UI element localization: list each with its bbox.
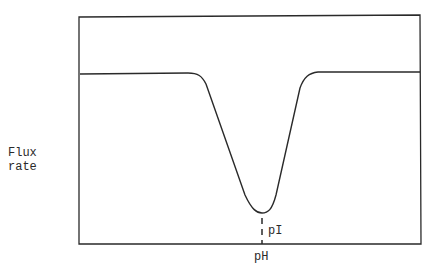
chart-canvas bbox=[0, 0, 433, 273]
y-axis-label-line2: rate bbox=[8, 160, 58, 174]
y-axis-label: Flux rate bbox=[8, 146, 58, 174]
flux-curve bbox=[80, 72, 420, 213]
y-axis-label-line1: Flux bbox=[8, 146, 58, 160]
x-axis-label: pH bbox=[254, 250, 268, 264]
plot-frame bbox=[79, 15, 421, 244]
pi-annotation: pI bbox=[268, 224, 282, 238]
